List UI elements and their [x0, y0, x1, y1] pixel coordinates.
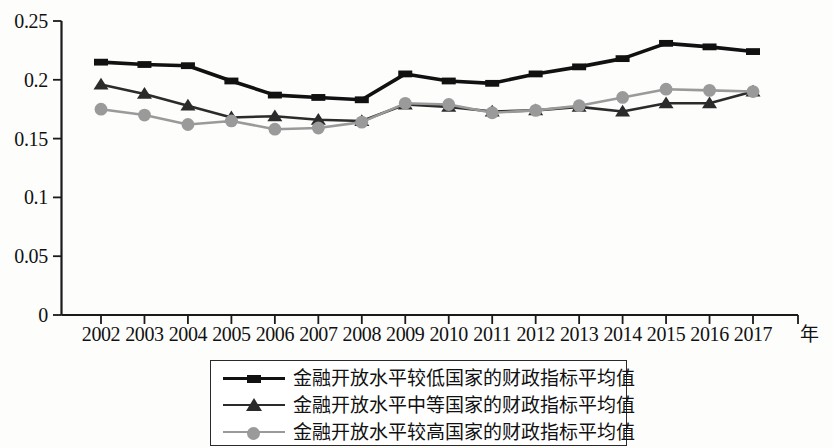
chart-legend: 金融开放水平较低国家的财政指标平均值 金融开放水平中等国家的财政指标平均值 金融…: [210, 360, 627, 446]
circle-marker: [486, 106, 499, 119]
plot-svg: [0, 0, 833, 340]
y-axis-tick-label: 0.05: [14, 246, 48, 266]
triangle-marker: [94, 78, 109, 90]
legend-swatch-triangle: [223, 395, 285, 415]
circle-marker: [312, 122, 325, 135]
square-marker: [442, 78, 456, 85]
circle-marker: [529, 104, 542, 117]
square-marker: [398, 71, 412, 78]
square-marker: [746, 48, 760, 55]
square-marker: [268, 92, 282, 99]
square-marker: [311, 94, 325, 101]
line-chart: 0.250.20.150.10.050 20022003200420052006…: [0, 0, 833, 448]
square-marker: [485, 80, 499, 87]
square-marker: [224, 78, 238, 85]
square-marker: [355, 96, 369, 103]
y-axis-tick-label: 0.15: [14, 129, 48, 149]
y-axis-tick-label: 0.1: [24, 187, 48, 207]
x-axis-unit-label: 年: [800, 322, 819, 346]
y-axis-ticks: [53, 21, 62, 315]
series-2: [94, 78, 761, 126]
square-marker: [616, 55, 630, 62]
data-series-group: [94, 40, 761, 136]
circle-marker: [95, 103, 108, 116]
y-axis-tick-label: 0.25: [14, 11, 48, 31]
triangle-marker-icon: [246, 398, 262, 411]
circle-marker: [182, 118, 195, 131]
circle-marker: [703, 84, 716, 97]
square-marker: [703, 43, 717, 50]
x-axis-labels: 2002200320042005200620072008200920102011…: [0, 322, 833, 352]
square-marker: [659, 40, 673, 47]
square-marker: [181, 62, 195, 69]
legend-label-low: 金融开放水平较低国家的财政指标平均值: [293, 367, 635, 389]
legend-label-medium: 金融开放水平中等国家的财政指标平均值: [293, 394, 635, 416]
circle-marker: [399, 97, 412, 110]
square-marker: [94, 59, 108, 66]
legend-swatch-circle: [223, 422, 285, 442]
circle-marker: [660, 83, 673, 96]
circle-marker: [616, 91, 629, 104]
plot-area: 0.250.20.150.10.050: [0, 0, 833, 340]
square-marker: [572, 63, 586, 70]
x-axis-tick-label: 2017: [728, 322, 778, 346]
circle-marker: [573, 99, 586, 112]
square-marker-icon: [247, 375, 261, 383]
square-marker: [137, 61, 151, 68]
legend-item-high[interactable]: 金融开放水平较高国家的财政指标平均值: [211, 418, 626, 445]
circle-marker: [442, 98, 455, 111]
circle-marker: [747, 85, 760, 98]
legend-label-high: 金融开放水平较高国家的财政指标平均值: [293, 421, 635, 443]
circle-marker: [138, 109, 151, 122]
legend-swatch-square: [223, 368, 285, 388]
legend-item-medium[interactable]: 金融开放水平中等国家的财政指标平均值: [211, 391, 626, 418]
legend-item-low[interactable]: 金融开放水平较低国家的财政指标平均值: [211, 364, 626, 391]
series-1: [94, 40, 760, 103]
circle-marker: [225, 115, 238, 128]
circle-marker: [268, 123, 281, 136]
y-axis-tick-label: 0.2: [24, 70, 48, 90]
square-marker: [529, 71, 543, 78]
circle-marker: [355, 116, 368, 129]
circle-marker-icon: [247, 427, 260, 440]
